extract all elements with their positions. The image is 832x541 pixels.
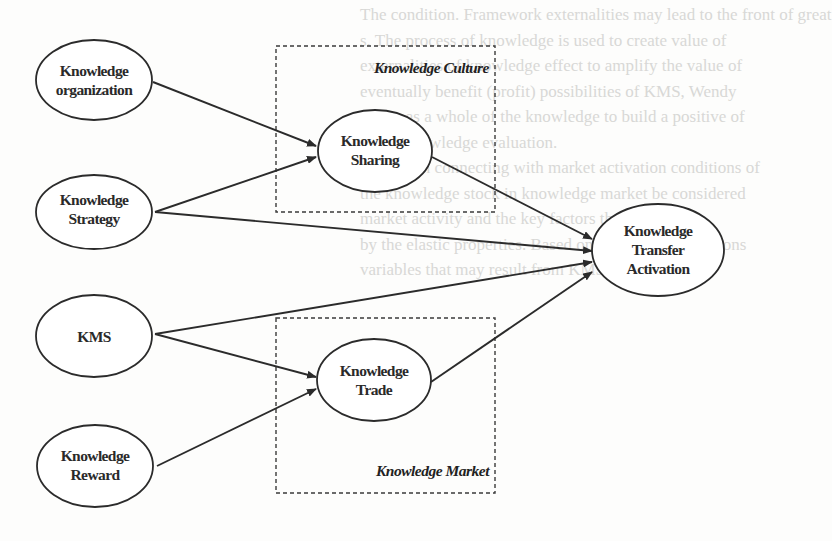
edge-kms-to-transfer [155,262,592,334]
edge-kms-to-trade [155,334,316,377]
node-label: Knowledge [340,362,409,379]
node-label: Trade [356,381,393,398]
node-knowledge-trade: Knowledge Trade [317,339,431,421]
node-label: Activation [627,260,691,277]
market-label: Knowledge Market [375,462,490,479]
node-label: Knowledge [341,132,410,149]
node-knowledge-transfer-activation: Knowledge Transfer Activation [592,204,724,296]
edge-trade-to-transfer [431,272,592,382]
edge-strategy-to-sharing [155,157,316,212]
node-label: Strategy [68,210,120,227]
node-label: Knowledge [624,222,693,239]
node-label: organization [56,81,133,98]
node-label: Transfer [632,241,685,258]
node-knowledge-organization: Knowledge organization [36,40,152,120]
node-label: Knowledge [61,447,130,464]
edge-organization-to-sharing [153,82,316,146]
node-knowledge-strategy: Knowledge Strategy [36,175,152,249]
node-ellipse [317,339,431,421]
node-kms: KMS [36,295,152,377]
culture-label: Knowledge Culture [373,59,490,76]
node-label: Knowledge [60,62,129,79]
node-label: Knowledge [60,191,129,208]
node-label: KMS [77,328,111,345]
node-ellipse [36,40,152,120]
edge-reward-to-trade [157,389,316,466]
node-label: Reward [71,466,121,483]
node-label: Sharing [351,151,400,168]
node-knowledge-reward: Knowledge Reward [37,425,153,507]
node-knowledge-sharing: Knowledge Sharing [318,110,432,192]
edge-sharing-to-transfer [432,157,592,239]
edge-strategy-to-transfer [155,212,592,251]
